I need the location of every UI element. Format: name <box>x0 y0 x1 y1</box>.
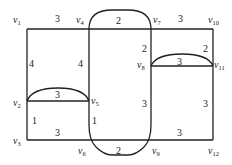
vertex-labels: v1 v2 v3 v4 v5 v6 v7 v8 v9 v10 v11 v12 <box>13 14 225 157</box>
edge-v4-v6 <box>89 29 96 147</box>
weight-v2-v3: 1 <box>32 115 37 126</box>
edge-weights: 3 2 3 4 4 2 2 3 3 1 1 3 3 3 2 3 <box>29 13 208 156</box>
vertex-v2: v2 <box>13 97 21 109</box>
vertex-v12: v12 <box>208 145 219 157</box>
weight-v6-v9: 2 <box>116 145 121 156</box>
graph-diagram: 3 2 3 4 4 2 2 3 3 1 1 3 3 3 2 3 v1 v2 v3… <box>0 0 232 165</box>
vertex-v7: v7 <box>153 14 161 26</box>
vertex-v9: v9 <box>152 145 160 157</box>
vertex-v10: v10 <box>208 14 219 26</box>
weight-v4-v7: 2 <box>116 15 121 26</box>
vertex-v1: v1 <box>13 14 21 26</box>
weight-v3-v6: 3 <box>55 127 60 138</box>
vertex-v5: v5 <box>91 95 99 107</box>
weight-v7-v8: 2 <box>142 43 147 54</box>
weight-v5-v6: 1 <box>92 115 97 126</box>
vertex-v3: v3 <box>13 135 21 147</box>
weight-v11-v12: 3 <box>203 98 208 109</box>
weight-v7-v10: 3 <box>178 13 183 24</box>
edge-arc-v8-v11 <box>151 54 213 66</box>
vertex-v11: v11 <box>214 59 225 71</box>
weight-v9-v12: 3 <box>177 127 182 138</box>
weight-v1-v4: 3 <box>55 13 60 24</box>
weight-v1-v2: 4 <box>29 58 34 69</box>
weight-v2-v5: 3 <box>55 89 60 100</box>
weight-v10-v11: 2 <box>203 43 208 54</box>
weight-v8-v11: 3 <box>177 56 182 67</box>
vertex-v4: v4 <box>76 14 84 26</box>
weight-v4-v5: 4 <box>78 58 83 69</box>
vertex-v6: v6 <box>78 145 86 157</box>
vertex-v8: v8 <box>137 59 145 71</box>
weight-v8-v9: 3 <box>142 98 147 109</box>
